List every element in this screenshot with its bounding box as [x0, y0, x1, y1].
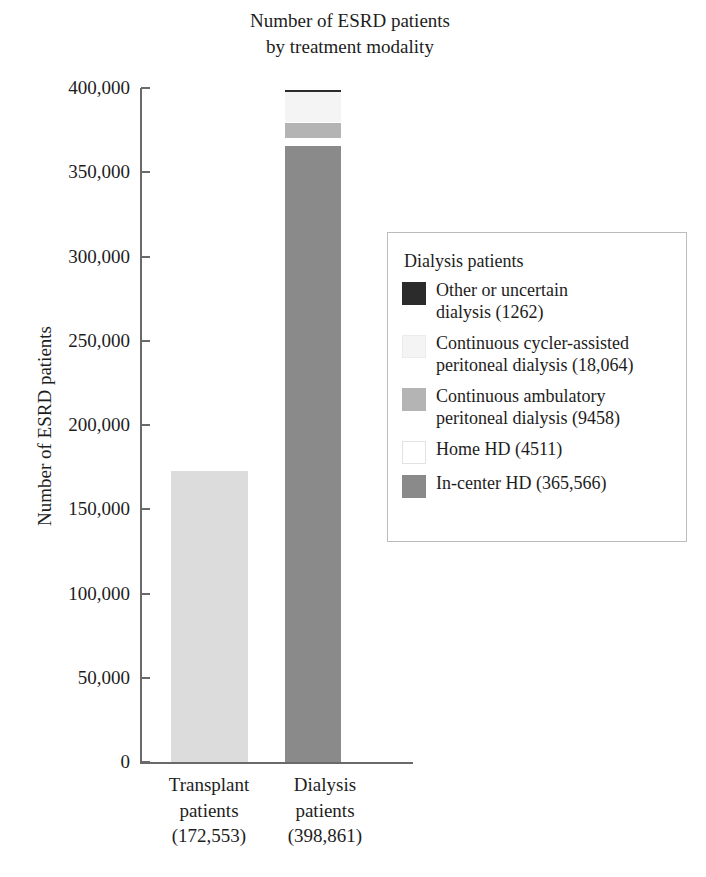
y-axis-line	[140, 88, 142, 764]
y-axis-tick-label: 300,000	[18, 247, 130, 266]
legend-swatch-icon	[402, 282, 426, 305]
legend-title: Dialysis patients	[404, 251, 674, 272]
y-axis-tick-label: 150,000	[18, 499, 130, 518]
y-axis-tick-label: 250,000	[18, 331, 130, 350]
legend-item[interactable]: Other or uncertain dialysis (1262)	[402, 280, 674, 324]
bar-segment[interactable]	[285, 123, 341, 139]
bar-segment[interactable]	[171, 471, 248, 762]
y-axis-tick	[141, 761, 150, 763]
legend-items: Other or uncertain dialysis (1262)Contin…	[402, 280, 674, 498]
legend-swatch-icon	[402, 475, 426, 498]
y-axis-tick-label: 400,000	[18, 78, 130, 97]
legend-item-label: Continuous ambulatory peritoneal dialysi…	[436, 386, 620, 430]
y-axis-tick	[141, 340, 150, 342]
legend-swatch-icon	[402, 441, 426, 464]
legend-swatch-icon	[402, 335, 426, 358]
legend-item[interactable]: Home HD (4511)	[402, 439, 674, 464]
y-axis-tick-label: 0	[18, 752, 130, 771]
legend-item[interactable]: Continuous ambulatory peritoneal dialysi…	[402, 386, 674, 430]
legend-swatch-icon	[402, 388, 426, 411]
bar-segment[interactable]	[285, 146, 341, 762]
y-axis-tick-label: 100,000	[18, 584, 130, 603]
bar-segment[interactable]	[285, 138, 341, 146]
chart-title: Number of ESRD patients by treatment mod…	[175, 8, 525, 59]
legend-item-label: Other or uncertain dialysis (1262)	[436, 280, 568, 324]
y-axis-tick	[141, 593, 150, 595]
bar-segment[interactable]	[285, 90, 341, 92]
y-axis-tick-label: 200,000	[18, 415, 130, 434]
bar-dialysis-patients[interactable]	[285, 88, 341, 762]
y-axis-tick	[141, 424, 150, 426]
y-axis-tick	[141, 171, 150, 173]
bar-transplant-patients[interactable]	[171, 88, 248, 762]
legend-item-label: Home HD (4511)	[436, 439, 562, 461]
legend-item[interactable]: In-center HD (365,566)	[402, 473, 674, 498]
x-axis-line	[140, 762, 413, 764]
y-axis-tick-label: 350,000	[18, 162, 130, 181]
x-axis-label-dialysis: Dialysis patients (398,861)	[240, 772, 410, 849]
y-axis-tick	[141, 87, 150, 89]
legend: Dialysis patients Other or uncertain dia…	[387, 232, 687, 542]
legend-item-label: Continuous cycler-assisted peritoneal di…	[436, 333, 633, 377]
y-axis-tick-label: 50,000	[18, 668, 130, 687]
y-axis-tick	[141, 256, 150, 258]
bar-segment[interactable]	[285, 92, 341, 122]
y-axis-tick	[141, 677, 150, 679]
legend-item-label: In-center HD (365,566)	[436, 473, 606, 495]
y-axis-tick	[141, 508, 150, 510]
legend-item[interactable]: Continuous cycler-assisted peritoneal di…	[402, 333, 674, 377]
